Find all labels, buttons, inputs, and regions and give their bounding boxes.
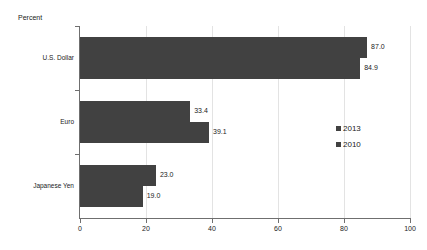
x-axis-tick <box>344 219 345 223</box>
category-label: Euro <box>8 118 74 125</box>
x-axis-tick <box>410 219 411 223</box>
bar-value-label: 87.0 <box>371 43 385 50</box>
legend-swatch-icon <box>336 142 341 147</box>
legend-item[interactable]: 2013 <box>336 120 396 136</box>
chart-legend: 20132010 <box>336 120 396 152</box>
bar-value-label: 33.4 <box>194 107 208 114</box>
bar-value-label: 19.0 <box>147 192 161 199</box>
bar <box>80 101 190 122</box>
legend-label: 2013 <box>343 124 361 133</box>
bar-value-label: 39.1 <box>213 128 227 135</box>
x-axis-tick <box>146 219 147 223</box>
bar <box>80 37 367 58</box>
x-axis-tick <box>212 219 213 223</box>
bar-value-label: 23.0 <box>160 171 174 178</box>
bar-value-label: 84.9 <box>364 64 378 71</box>
y-axis-tick <box>75 90 80 91</box>
x-axis-line <box>79 218 411 219</box>
bar <box>80 165 156 186</box>
x-axis-tick-label: 0 <box>65 225 95 232</box>
bar <box>80 186 143 207</box>
x-axis-tick <box>80 219 81 223</box>
x-axis-tick-label: 80 <box>329 225 359 232</box>
y-axis-tick <box>75 26 80 27</box>
legend-swatch-icon <box>336 126 341 131</box>
bar-chart: Percent 020406080100 U.S. DollarEuroJapa… <box>0 0 427 250</box>
x-axis-tick <box>278 219 279 223</box>
bar <box>80 122 209 143</box>
x-axis-tick-label: 60 <box>263 225 293 232</box>
gridline <box>410 26 411 218</box>
category-label: Japanese Yen <box>8 182 74 189</box>
bar <box>80 58 360 79</box>
y-axis-title: Percent <box>18 14 42 21</box>
x-axis-tick-label: 20 <box>131 225 161 232</box>
y-axis-tick <box>75 154 80 155</box>
x-axis-tick-label: 40 <box>197 225 227 232</box>
x-axis-tick-label: 100 <box>395 225 425 232</box>
category-label: U.S. Dollar <box>8 54 74 61</box>
legend-label: 2010 <box>343 140 361 149</box>
legend-item[interactable]: 2010 <box>336 136 396 152</box>
